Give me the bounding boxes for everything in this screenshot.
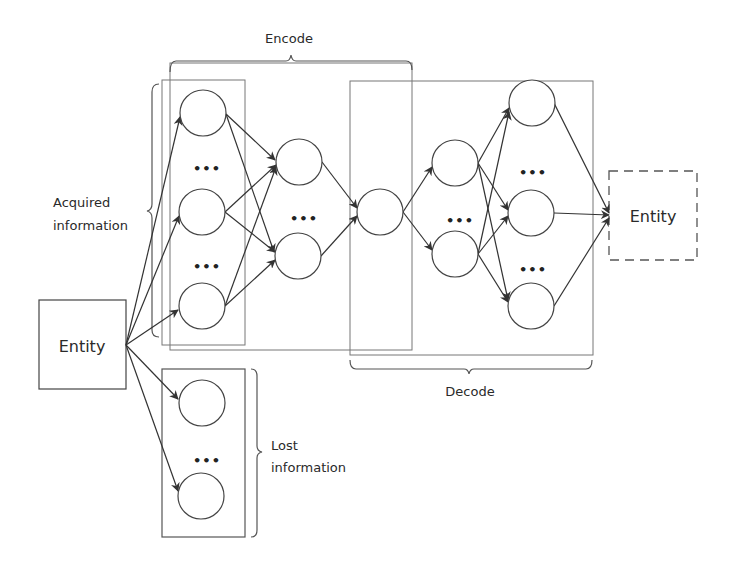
decode-label: Decode — [445, 382, 494, 401]
lost-line1: Lost — [271, 436, 346, 455]
ellipsis-l4: ••• — [446, 213, 474, 228]
node-l2-1 — [276, 139, 322, 185]
ellipsis-lost: ••• — [193, 453, 221, 468]
node-l1-3 — [179, 283, 225, 329]
node-lost-2 — [178, 473, 224, 519]
output-entity-label: Entity — [630, 207, 677, 226]
ellipsis-l5-a: ••• — [519, 165, 547, 180]
ellipsis-l1-b: ••• — [193, 259, 221, 274]
node-l5-1 — [509, 80, 555, 126]
acquired-information-label: Acquired information — [53, 193, 128, 235]
node-l5-2 — [508, 190, 554, 236]
acquired-line2: information — [53, 216, 128, 235]
nodes — [178, 80, 555, 519]
node-lost-1 — [179, 380, 225, 426]
ellipsis-l2: ••• — [290, 211, 318, 226]
acquired-line1: Acquired — [53, 193, 128, 212]
ellipsis-l1-a: ••• — [193, 161, 221, 176]
lost-brace — [251, 369, 262, 537]
node-l2-2 — [275, 233, 321, 279]
ellipsis-l5-b: ••• — [519, 262, 547, 277]
lost-line2: information — [271, 458, 346, 477]
autoencoder-diagram — [0, 0, 730, 570]
node-l4-1 — [432, 140, 478, 186]
node-bottleneck — [357, 189, 403, 235]
node-l5-3 — [508, 283, 554, 329]
lost-information-label: Lost information — [271, 436, 346, 477]
node-l1-1 — [180, 90, 226, 136]
acquired-brace — [147, 84, 159, 337]
decode-brace — [350, 360, 592, 374]
input-entity-label: Entity — [59, 337, 106, 356]
node-l1-2 — [179, 189, 225, 235]
encode-label: Encode — [265, 29, 313, 48]
node-l4-2 — [432, 231, 478, 277]
